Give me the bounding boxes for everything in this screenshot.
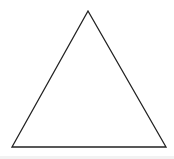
triangle-figure: [0, 0, 174, 159]
triangle-shape: [12, 11, 166, 147]
diagram-canvas: [0, 0, 174, 159]
bottom-border-strip: [0, 156, 174, 159]
